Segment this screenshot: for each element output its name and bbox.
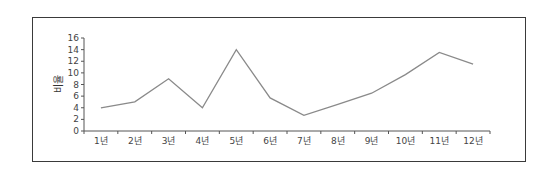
line-chart: 0246810121416 1년2년3년4년5년6년7년8년9년10년11년12… xyxy=(0,0,556,175)
x-tick-label: 1년 xyxy=(94,136,108,146)
x-tick-label: 5년 xyxy=(229,136,243,146)
x-tick-label: 8년 xyxy=(331,136,345,146)
y-tick-label: 14 xyxy=(68,45,80,55)
y-tick-label: 8 xyxy=(73,80,79,90)
x-tick-label: 10년 xyxy=(396,136,415,146)
y-tick-label: 12 xyxy=(68,56,79,66)
y-axis-label: 비율 xyxy=(53,75,64,93)
x-tick-label: 3년 xyxy=(162,136,176,146)
y-tick-label: 6 xyxy=(73,91,79,101)
y-axis: 0246810121416 xyxy=(68,33,84,136)
y-tick-label: 10 xyxy=(68,68,80,78)
x-tick-label: 9년 xyxy=(365,136,379,146)
x-tick-label: 7년 xyxy=(297,136,311,146)
y-tick-label: 2 xyxy=(73,114,79,124)
x-tick-label: 4년 xyxy=(196,136,210,146)
series-line xyxy=(101,50,473,116)
y-tick-label: 16 xyxy=(68,33,80,43)
y-tick-label: 0 xyxy=(73,126,79,136)
x-tick-label: 12년 xyxy=(463,136,482,146)
y-tick-label: 4 xyxy=(73,103,79,113)
x-tick-label: 11년 xyxy=(430,136,449,146)
x-tick-label: 2년 xyxy=(128,136,142,146)
x-tick-label: 6년 xyxy=(263,136,277,146)
x-axis: 1년2년3년4년5년6년7년8년9년10년11년12년 xyxy=(84,131,490,146)
